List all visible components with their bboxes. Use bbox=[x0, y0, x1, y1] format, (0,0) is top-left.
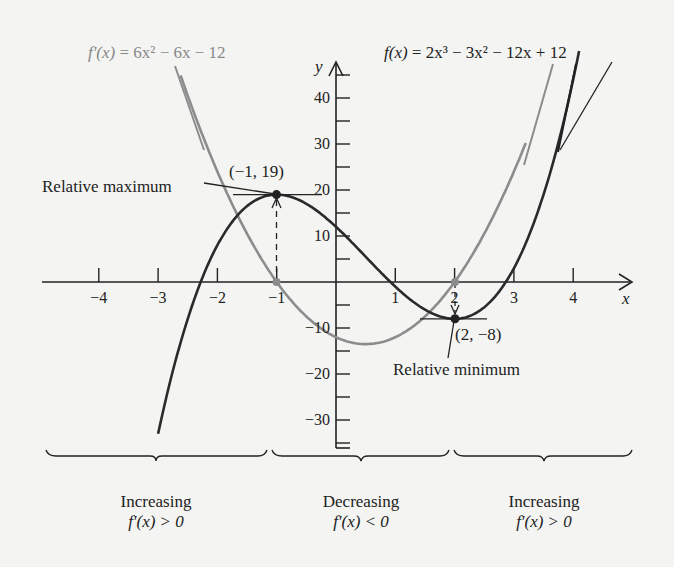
f-equation: f(x) = 2x³ − 3x² − 12x + 12 bbox=[384, 44, 567, 61]
region-increasing-left: Increasing f'(x) > 0 bbox=[121, 492, 192, 532]
fprime-equation-lhs: f'(x) bbox=[88, 43, 115, 62]
region-condition: f'(x) < 0 bbox=[323, 512, 399, 532]
min-point bbox=[451, 314, 460, 323]
brace-increasing-right bbox=[454, 450, 632, 461]
y-tick-label: 20 bbox=[300, 182, 330, 198]
region-increasing-right: Increasing f'(x) > 0 bbox=[509, 492, 580, 532]
f-equation-lhs: f(x) bbox=[384, 43, 408, 62]
y-tick-label: −10 bbox=[300, 320, 330, 336]
region-decreasing: Decreasing f'(x) < 0 bbox=[323, 492, 399, 532]
region-condition: f'(x) > 0 bbox=[121, 512, 192, 532]
y-tick-label: 30 bbox=[300, 136, 330, 152]
y-ticks bbox=[336, 75, 350, 443]
x-tick-label: −4 bbox=[90, 290, 107, 306]
x-tick-label: −1 bbox=[268, 290, 285, 306]
fprime-root-right bbox=[451, 278, 459, 286]
brace-decreasing bbox=[272, 450, 449, 461]
x-tick-label: −2 bbox=[209, 290, 226, 306]
f-leader-1 bbox=[524, 64, 553, 165]
min-arrow-icon bbox=[451, 305, 459, 314]
x-tick-label: −3 bbox=[150, 290, 167, 306]
x-tick-label: 1 bbox=[391, 290, 399, 306]
x-tick-label: 3 bbox=[510, 290, 518, 306]
fprime-equation-rhs: = 6x² − 6x − 12 bbox=[115, 43, 225, 62]
max-point bbox=[272, 190, 281, 199]
chart-canvas bbox=[0, 0, 674, 567]
min-leader bbox=[448, 321, 454, 358]
fprime-curve bbox=[181, 75, 526, 344]
y-tick-label: 10 bbox=[300, 228, 330, 244]
x-tick-label: 2 bbox=[451, 290, 459, 306]
y-tick-label: −20 bbox=[300, 366, 330, 382]
interval-braces bbox=[46, 450, 632, 461]
axes bbox=[42, 62, 632, 448]
max-leader bbox=[204, 183, 275, 194]
fprime-equation: f'(x) = 6x² − 6x − 12 bbox=[88, 44, 226, 61]
max-label: Relative maximum bbox=[42, 178, 172, 195]
f-equation-rhs: = 2x³ − 3x² − 12x + 12 bbox=[408, 43, 567, 62]
fprime-root-left bbox=[273, 278, 281, 286]
x-axis-label: x bbox=[622, 290, 630, 307]
min-label: Relative minimum bbox=[393, 361, 520, 378]
annotations bbox=[175, 62, 612, 358]
region-condition: f'(x) > 0 bbox=[509, 512, 580, 532]
region-title: Decreasing bbox=[323, 492, 399, 512]
y-tick-label: 40 bbox=[300, 90, 330, 106]
max-point-label: (−1, 19) bbox=[229, 163, 284, 180]
brace-increasing-left bbox=[46, 450, 267, 461]
min-point-label: (2, −8) bbox=[455, 326, 501, 343]
y-tick-label: −30 bbox=[300, 412, 330, 428]
x-tick-label: 4 bbox=[569, 290, 577, 306]
region-title: Increasing bbox=[121, 492, 192, 512]
fprime-leader bbox=[175, 66, 204, 150]
region-title: Increasing bbox=[509, 492, 580, 512]
y-axis-label: y bbox=[315, 58, 323, 75]
